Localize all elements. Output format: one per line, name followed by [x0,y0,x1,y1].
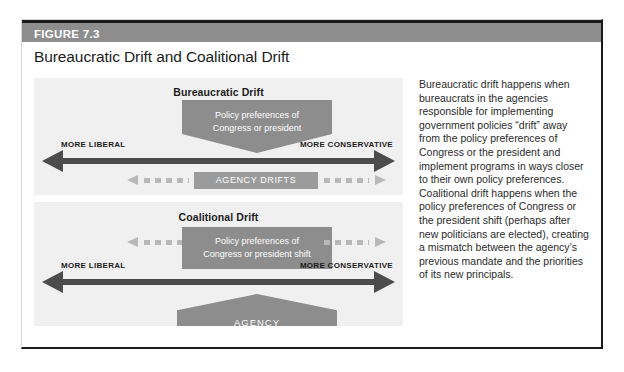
panel-title-coalitional-drift: Coalitional Drift [34,211,403,223]
diagram-column: Bureaucratic Drift Policy preferences of… [34,78,403,326]
axis-label-more-liberal-top: MORE LIBERAL [61,140,126,149]
dashed-arrow-segment [144,178,189,183]
dashed-arrow-head-right-icon [375,175,386,185]
dashed-arrow-right-bottom [324,237,386,248]
callout-line-2: Congress or president [182,122,332,135]
dashed-arrow-head-left-icon [127,175,138,185]
ideology-axis-arrow-top [42,150,395,172]
panel-coalitional-drift: Coalitional Drift Policy preferences of … [34,202,403,326]
dashed-arrow-left-bottom [127,237,189,248]
callout-line-1: Policy preferences of [182,235,332,248]
dashed-arrow-head-right-icon [375,237,386,247]
dashed-arrow-segment [324,240,369,245]
agency-shape: AGENCY [177,294,337,326]
ideology-axis-arrow-bottom [42,271,395,293]
figure-title: Bureaucratic Drift and Coalitional Drift [34,48,289,66]
agency-label: AGENCY [177,317,337,326]
dashed-arrow-right-top [324,175,386,186]
panel-title-bureaucratic-drift: Bureaucratic Drift [34,86,403,98]
agency-drifts-box: AGENCY DRIFTS [194,172,318,189]
dashed-arrow-left-top [127,175,189,186]
figure-header-bar: FIGURE 7.3 [22,20,601,42]
axis-label-more-liberal-bottom: MORE LIBERAL [61,261,126,270]
axis-arrow-head-left-icon [42,271,63,293]
figure-frame: FIGURE 7.3 Bureaucratic Drift and Coalit… [21,19,603,349]
panel-bureaucratic-drift: Bureaucratic Drift Policy preferences of… [34,78,403,195]
callout-line-1: Policy preferences of [182,109,332,122]
callout-line-2: Congress or president shift [182,248,332,261]
axis-label-more-conservative-top: MORE CONSERVATIVE [300,140,393,149]
axis-label-more-conservative-bottom: MORE CONSERVATIVE [300,261,393,270]
dashed-arrow-segment [324,178,369,183]
figure-number-label: FIGURE 7.3 [34,28,100,40]
axis-arrow-head-right-icon [374,271,395,293]
dashed-arrow-head-left-icon [127,237,138,247]
figure-caption: Bureaucratic drift happens when bureaucr… [419,78,591,282]
axis-arrow-bar [61,158,376,164]
axis-arrow-bar [61,279,376,285]
axis-arrow-head-right-icon [374,150,395,172]
axis-arrow-head-left-icon [42,150,63,172]
